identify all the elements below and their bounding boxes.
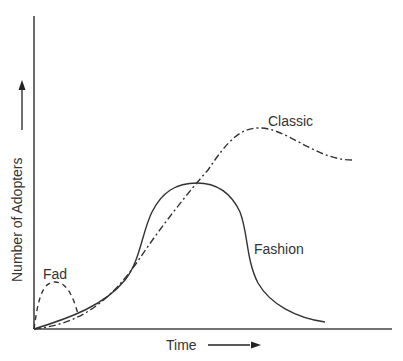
fad-label: Fad bbox=[43, 266, 67, 282]
y-axis-arrow-icon bbox=[19, 80, 26, 130]
x-axis-label: Time bbox=[166, 337, 197, 353]
classic-curve bbox=[34, 128, 352, 329]
y-axis-label: Number of Adopters bbox=[9, 157, 25, 282]
classic-label: Classic bbox=[268, 113, 313, 129]
adoption-curves-diagram: Number of Adopters Time Fad Fashion Clas… bbox=[0, 0, 403, 361]
x-axis-arrow-icon bbox=[208, 342, 261, 349]
fashion-label: Fashion bbox=[254, 241, 304, 257]
